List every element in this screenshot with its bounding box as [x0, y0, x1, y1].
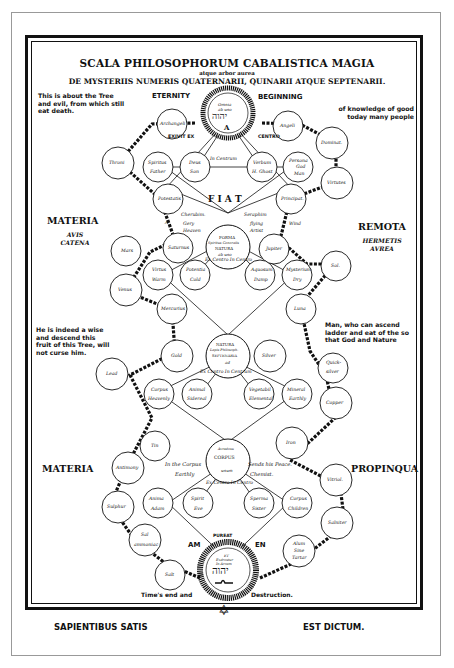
medallion-top-letter: A [224, 124, 229, 131]
medallion-natura-ad: ad [225, 361, 230, 365]
circle-corpus-h: Corpus [151, 388, 168, 393]
circle-alum: Alum [293, 542, 305, 547]
label-avis: AVIS [60, 231, 90, 239]
circle-virtutes: Virtutes [327, 181, 346, 186]
circle-sine: Sine [294, 549, 304, 554]
circle-father: Father [150, 170, 165, 175]
circle-potestatis: Potestatis [158, 197, 181, 202]
circle-ammoniac: ammoniac [134, 543, 158, 548]
circle-verbum: Verbum [253, 161, 271, 166]
circle-animal: Animal [189, 388, 205, 393]
subtitle: DE MYSTERIIS NUMERIS QUATERNARII, QUINAR… [0, 78, 454, 86]
medallion-bottom-pureat: PUREAT [213, 534, 232, 538]
circle-dominat: Dominat. [321, 141, 342, 146]
circle-luna: Luna [294, 307, 306, 312]
circle-aquosum: Aquosum [251, 268, 273, 273]
medallion-natura-lapis: Lapis Philosoph. [210, 349, 238, 352]
medallion-forma-natura: NATURA [215, 247, 233, 251]
circle-corpus-c: Corpus [290, 497, 307, 502]
footer-left: SAPIENTIBUS SATIS [54, 623, 148, 632]
medallion-forma-abuno: ab uno [218, 253, 232, 257]
circle-copper: Copper [326, 401, 343, 406]
circle-vitriol: Vitriol. [327, 478, 343, 483]
text-flying: flying [250, 222, 263, 227]
circle-man: Man [294, 172, 304, 177]
circle-tin: Tin [151, 444, 159, 449]
circle-venus: Venus [118, 288, 132, 293]
circle-persona: Persona [289, 159, 308, 164]
note-mid-right: Man, who can ascend ladder and eat of th… [325, 321, 415, 344]
circle-archangeli: Archangeli [160, 122, 185, 127]
circle-god: God [296, 165, 305, 170]
circle-lead: Lead [106, 372, 117, 377]
text-ex-centro-bottom: Ex Centro In Centro [206, 481, 253, 486]
text-in-the-corpus: In the Corpus [165, 462, 201, 467]
label-hermetis: HERMETIS [362, 237, 402, 245]
circle-gold: Gold [171, 354, 182, 359]
circle-tartar: Tartar [292, 556, 306, 561]
circle-cold: Cold [190, 278, 201, 283]
circle-iron: Iron [286, 441, 296, 446]
text-destruction: Destruction. [251, 592, 293, 598]
label-avrea: AVREA [362, 245, 402, 253]
medallion-corpus-unum: unum [221, 469, 233, 473]
circle-jupiter: Jupiter [266, 247, 282, 252]
circle-quick: Quick- [326, 361, 341, 366]
text-exivit-ex: EXIVIT EX [168, 135, 194, 140]
circle-virtus: Virtus [152, 268, 166, 273]
note-top-left: This is about the Tree and evil, from wh… [38, 92, 128, 115]
label-en: EN [255, 542, 266, 549]
circle-sal: Sal [141, 533, 148, 538]
circle-sidereal: Sidereal [187, 397, 206, 402]
circle-warm: Warm [152, 278, 166, 283]
circle-sol: Sol. [331, 264, 340, 269]
circle-hghost: H. Ghost [252, 170, 273, 175]
medallion-forma: FORMA [219, 236, 235, 240]
circle-elemental: Elemental [249, 397, 273, 402]
circle-dry: Dry [293, 278, 301, 283]
circle-mysterium: Mysterium [286, 268, 311, 273]
circle-throni: Throni [109, 161, 124, 166]
text-seraphim: Seraphim [244, 213, 267, 218]
label-beginning: BEGINNING [258, 94, 302, 101]
star-of-david-icon: ✡ [218, 603, 230, 617]
circle-mineral: Mineral [287, 388, 305, 393]
medallion-corpus: CORPUS [214, 456, 235, 461]
label-materia-bottom: MATERIA [42, 464, 93, 474]
label-propinqua: PROPINQUA [351, 464, 418, 474]
circle-adam: Adam [151, 507, 164, 512]
circle-salniter: Salniter [328, 521, 347, 526]
circle-salt: Salt [165, 573, 174, 578]
circle-children: Children [288, 507, 308, 512]
text-fiat: F I A T [208, 195, 242, 204]
label-am: AM [188, 542, 200, 549]
circle-silver: Silver [262, 354, 276, 359]
text-wind: Wind [289, 222, 301, 227]
circle-saturnus: Saturnus [168, 246, 189, 251]
medallion-forma-spiritus: Spiritus Generalis [208, 242, 239, 245]
circle-anima: Anima [149, 497, 164, 502]
circle-spiritus: Spiritus [148, 161, 166, 166]
medallion-bottom-hebrew: יהוה [212, 566, 229, 576]
text-artist: Artist [250, 229, 263, 234]
label-eternity: ETERNITY [152, 93, 190, 100]
text-centro: CENTRO [258, 135, 280, 140]
circle-earthly: Earthly [289, 397, 306, 402]
circle-vegetabil: Vegetabil [249, 388, 271, 393]
circle-principat: Principat. [281, 197, 304, 202]
text-ex-centro-mid: Ex Centro In Centrum [200, 370, 252, 375]
note-top-right: of knowledge of good today many people [322, 105, 414, 120]
label-remota: REMOTA [358, 222, 406, 232]
circle-son: Son [190, 170, 199, 175]
circle-spirit: Spirit [191, 497, 204, 502]
text-sends-peace: Sends his Peace. [248, 462, 292, 467]
footer-right: EST DICTUM. [303, 623, 365, 632]
circle-eve: Eve [194, 507, 203, 512]
label-catena: CATENA [60, 239, 90, 247]
label-materia-top: MATERIA [47, 216, 98, 226]
text-chemist: Chemist. [250, 472, 273, 477]
text-times-end: Time's end and [141, 592, 192, 598]
text-a: A [165, 221, 168, 226]
medallion-top-hebrew: יהוה [212, 112, 227, 121]
medallion-corpus-top: Avradesu [218, 448, 234, 451]
